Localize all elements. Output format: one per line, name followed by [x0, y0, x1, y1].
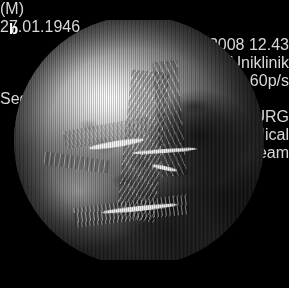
figure-panel-label: b [9, 21, 18, 36]
screenshot-root: b (M)27.01.1946 16.07.2008 12.43Freiburg… [0, 0, 289, 288]
scope-circular-field [14, 20, 264, 264]
patient-sex: (M) [0, 0, 24, 17]
frame-bottom-mask [10, 260, 268, 264]
endoscopic-video-frame [10, 20, 268, 264]
